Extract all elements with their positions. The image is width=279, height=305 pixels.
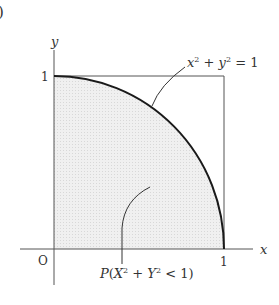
figure-marker: )	[0, 3, 4, 21]
x-tick-1: 1	[220, 255, 228, 269]
curve-label-leader	[152, 67, 185, 106]
x-axis-label: x	[260, 242, 268, 257]
origin-label: O	[38, 254, 48, 268]
probability-quarter-circle-diagram: ) y x O 1 1 x2 + y2 = 1 P(X2 + Y2 < 1)	[0, 0, 279, 305]
shaded-region	[54, 76, 224, 249]
curve-equation-label: x2 + y2 = 1	[187, 55, 259, 70]
y-axis-label: y	[50, 34, 59, 49]
probability-label: P(X2 + Y2 < 1)	[99, 266, 194, 281]
y-tick-1: 1	[41, 70, 49, 84]
